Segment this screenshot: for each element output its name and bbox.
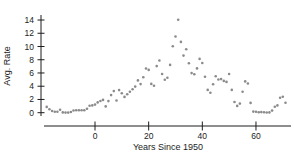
y-axis-label: Avg. Rate [2,46,12,85]
data-point [265,111,268,114]
data-point [129,91,132,94]
x-tick-label: 60 [251,131,261,141]
data-point [51,110,54,113]
data-point [282,96,285,99]
data-point [88,104,91,107]
data-point [233,101,236,104]
data-point [212,83,215,86]
data-point [284,102,287,105]
data-point [193,73,196,76]
y-tick-label: 10 [25,42,35,52]
data-point [201,62,204,65]
data-point [115,99,118,102]
data-point [137,79,140,82]
data-point [142,76,145,79]
y-tick-label: 6 [29,68,34,78]
data-point [147,69,150,72]
data-point [110,94,113,97]
data-point [214,75,217,78]
data-point [145,67,148,70]
data-point [78,109,81,112]
data-point [134,85,137,88]
data-point [217,78,220,81]
data-point [158,59,161,62]
data-point [185,48,188,51]
data-point [131,88,134,91]
data-point [70,111,73,114]
data-point [268,111,271,114]
data-point [271,109,274,112]
y-tick-label: 14 [25,15,35,25]
data-point [279,97,282,100]
data-point [94,103,97,106]
data-point [177,19,180,22]
data-point [263,111,266,114]
data-point [209,91,212,94]
data-point [64,111,67,114]
data-point [91,104,94,107]
x-tick-label: 0 [93,131,98,141]
data-point [102,99,105,102]
data-point [48,108,51,111]
y-tick-label: 8 [29,55,34,65]
data-point [80,109,83,112]
scatter-plot-figure: 024681012140204060 Avg. Rate Years Since… [0,0,294,162]
data-point [150,83,153,86]
data-point [164,78,167,81]
data-point [247,82,250,85]
data-point [118,89,121,92]
x-tick-label: 20 [144,131,154,141]
data-point [83,109,86,112]
data-point [59,108,62,111]
data-point [239,102,242,105]
data-point [255,111,258,114]
data-point [96,101,99,104]
data-point [153,85,156,88]
axis-ticks [38,20,256,130]
x-axis-label: Years Since 1950 [133,142,203,152]
y-tick-label: 2 [29,94,34,104]
data-point [107,100,110,103]
data-point [62,111,65,114]
data-point [206,89,209,92]
data-point [198,58,201,61]
x-tick-label: 40 [198,131,208,141]
data-point [54,111,57,114]
data-point [257,111,260,114]
data-point [86,107,89,110]
data-point [113,90,116,93]
data-point [236,105,239,108]
scatter-plot: 024681012140204060 Avg. Rate Years Since… [0,0,294,162]
data-point [174,35,177,38]
data-points [45,19,286,114]
data-point [67,111,70,114]
data-point [155,65,158,68]
data-point [169,64,172,67]
data-point [252,110,255,113]
data-point [75,109,78,112]
data-point [166,77,169,80]
data-point [231,89,234,92]
data-point [244,80,247,83]
data-point [225,81,228,84]
data-point [241,91,244,94]
data-point [260,111,263,114]
data-point [172,45,175,48]
data-point [204,76,207,79]
data-point [190,72,193,75]
data-point [274,105,277,108]
data-point [223,80,226,83]
data-point [126,93,129,96]
data-point [182,54,185,57]
data-point [180,41,183,44]
data-point [161,73,164,76]
data-point [276,104,279,107]
data-point [196,67,199,70]
y-tick-label: 0 [29,108,34,118]
y-tick-label: 12 [25,28,35,38]
data-point [188,62,191,65]
data-point [139,83,142,86]
data-point [45,106,48,109]
data-point [123,96,126,99]
data-point [249,102,252,105]
